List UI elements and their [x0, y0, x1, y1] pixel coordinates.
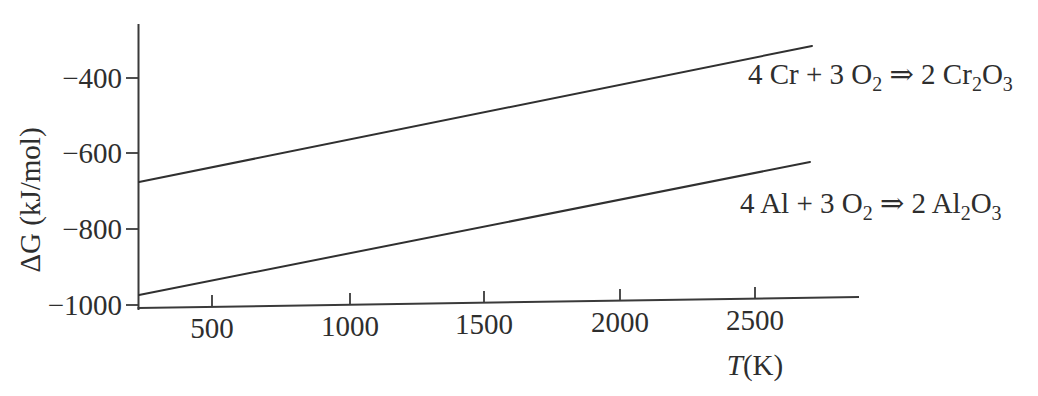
y-axis-title-delta: Δ [14, 254, 46, 273]
cr-label-part-2: ⇒ 2 Cr [882, 58, 972, 90]
x-axis-title-unit: (K) [743, 349, 783, 382]
x-tick-marks [212, 287, 755, 307]
ellingham-diagram-figure: −400 −600 −800 −1000 500 1000 1500 2000 … [0, 0, 1038, 396]
cr-label-sub-3: 2 [972, 73, 982, 95]
al-label-sub-1: 2 [863, 202, 873, 224]
cr-label-part-4: O [982, 58, 1003, 90]
series-lines [139, 46, 812, 295]
y-tick-label-600: −600 [62, 137, 122, 169]
y-tick-label-1000: −1000 [48, 289, 122, 321]
series-label-aluminium: 4 Al + 3 O2 ⇒ 2 Al2O3 [740, 187, 1002, 224]
cr-label-part-0: 4 Cr + 3 O [748, 58, 872, 90]
y-axis-title: ΔG (kJ/mol) [14, 127, 47, 272]
chart-canvas: −400 −600 −800 −1000 500 1000 1500 2000 … [0, 0, 1038, 396]
svg-text:T(K): T(K) [727, 349, 783, 382]
y-tick-labels: −400 −600 −800 −1000 [48, 62, 122, 321]
series-line-aluminium [139, 162, 810, 295]
series-annotations: 4 Cr + 3 O2 ⇒ 2 Cr2O3 4 Al + 3 O2 ⇒ 2 Al… [740, 58, 1013, 224]
y-tick-label-400: −400 [62, 62, 122, 94]
series-label-chromium: 4 Cr + 3 O2 ⇒ 2 Cr2O3 [748, 58, 1013, 95]
series-line-chromium [139, 46, 812, 182]
cr-label-sub-1: 2 [872, 73, 882, 95]
x-tick-labels: 500 1000 1500 2000 2500 [190, 304, 784, 344]
cr-label-sub-5: 3 [1003, 73, 1013, 95]
y-axis-title-unit: (kJ/mol) [14, 127, 47, 233]
y-tick-label-800: −800 [62, 213, 122, 245]
x-tick-label-500: 500 [190, 312, 234, 344]
al-label-sub-3: 2 [961, 202, 971, 224]
svg-text:ΔG (kJ/mol): ΔG (kJ/mol) [14, 127, 47, 272]
y-axis-title-g: G [14, 233, 46, 254]
al-label-part-0: 4 Al + 3 O [740, 187, 863, 219]
x-axis-title: T(K) [727, 349, 783, 382]
al-label-part-2: ⇒ 2 Al [873, 187, 961, 219]
x-tick-label-2000: 2000 [591, 306, 649, 338]
x-tick-label-1000: 1000 [321, 310, 379, 342]
al-label-sub-5: 3 [992, 202, 1002, 224]
y-tick-marks [126, 78, 139, 305]
al-label-part-4: O [971, 187, 992, 219]
x-tick-label-2500: 2500 [726, 304, 784, 336]
x-tick-label-1500: 1500 [455, 308, 513, 340]
